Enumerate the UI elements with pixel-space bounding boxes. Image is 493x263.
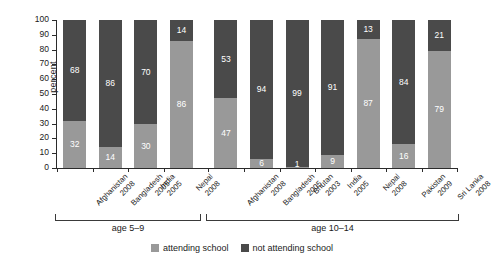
stacked-bar[interactable]: 8416 bbox=[392, 20, 415, 168]
y-axis-tick-label: 70 bbox=[21, 58, 49, 68]
x-axis-tick bbox=[315, 168, 316, 172]
bar-segment-attending[interactable]: 14 bbox=[99, 147, 122, 168]
y-axis-tick-label: 100 bbox=[21, 14, 49, 24]
bar-value-label: 84 bbox=[399, 78, 408, 87]
stacked-bar[interactable]: 919 bbox=[321, 20, 344, 168]
bar-segment-not-attending[interactable]: 68 bbox=[63, 20, 86, 121]
x-axis-tick bbox=[128, 168, 129, 172]
bar-value-label: 68 bbox=[70, 66, 79, 75]
stacked-bar[interactable]: 8614 bbox=[99, 20, 122, 168]
y-axis-tick-label: 60 bbox=[21, 73, 49, 83]
y-axis-tick-label: 10 bbox=[21, 147, 49, 157]
age-group-label: age 5–9 bbox=[55, 223, 201, 233]
bar-value-label: 13 bbox=[363, 25, 372, 34]
y-axis-tick-label: 0 bbox=[21, 162, 49, 172]
x-axis-tick bbox=[280, 168, 281, 172]
x-axis-tick bbox=[386, 168, 387, 172]
bar-segment-attending[interactable]: 6 bbox=[250, 159, 273, 168]
x-axis-category-label: Sri Lanka2008 bbox=[456, 172, 493, 209]
stacked-bar[interactable]: 5347 bbox=[214, 20, 237, 168]
bar-segment-not-attending[interactable]: 13 bbox=[357, 20, 380, 39]
x-axis-line bbox=[56, 168, 458, 169]
legend-swatch-attending-icon bbox=[151, 244, 159, 252]
stacked-bar[interactable]: 1486 bbox=[170, 20, 193, 168]
y-axis-tick: 80 bbox=[52, 50, 57, 51]
bar-segment-not-attending[interactable]: 21 bbox=[428, 20, 451, 51]
bar-value-label: 14 bbox=[177, 26, 186, 35]
x-axis-category-label: Bhutan2003 bbox=[311, 172, 342, 203]
bar-value-label: 32 bbox=[70, 140, 79, 149]
bar-segment-attending[interactable]: 30 bbox=[134, 124, 157, 168]
stacked-bar[interactable]: 7030 bbox=[134, 20, 157, 168]
bar-value-label: 70 bbox=[141, 68, 150, 77]
bar-value-label: 53 bbox=[221, 55, 230, 64]
bar-segment-attending[interactable]: 32 bbox=[63, 121, 86, 168]
legend-item-attending[interactable]: attending school bbox=[151, 243, 229, 253]
y-axis-tick: 100 bbox=[52, 20, 57, 21]
bar-segment-attending[interactable]: 47 bbox=[214, 98, 237, 168]
bar-segment-attending[interactable]: 87 bbox=[357, 39, 380, 168]
y-axis-tick: 50 bbox=[52, 94, 57, 95]
y-axis-tick: 60 bbox=[52, 79, 57, 80]
bar-segment-not-attending[interactable]: 14 bbox=[170, 20, 193, 41]
x-axis-tick bbox=[351, 168, 352, 172]
y-axis-tick-label: 50 bbox=[21, 88, 49, 98]
bar-segment-attending[interactable]: 1 bbox=[286, 167, 309, 168]
y-axis-tick-label: 30 bbox=[21, 118, 49, 128]
y-axis-tick-label: 80 bbox=[21, 44, 49, 54]
y-axis-tick: 30 bbox=[52, 124, 57, 125]
bar-value-label: 30 bbox=[141, 142, 150, 151]
x-axis-category-label: Nepal2008 bbox=[194, 172, 222, 200]
bar-segment-attending[interactable]: 16 bbox=[392, 144, 415, 168]
x-axis-category-label: Pakistan2009 bbox=[419, 172, 454, 207]
stacked-bar[interactable]: 1387 bbox=[357, 20, 380, 168]
legend-swatch-not-attending-icon bbox=[241, 244, 249, 252]
x-axis-tick bbox=[57, 168, 58, 172]
bar-segment-not-attending[interactable]: 70 bbox=[134, 20, 157, 124]
x-axis-category-label: Nepal2008 bbox=[381, 172, 409, 200]
x-axis-tick bbox=[93, 168, 94, 172]
y-axis-tick: 20 bbox=[52, 138, 57, 139]
bar-value-label: 14 bbox=[106, 153, 115, 162]
bar-segment-not-attending[interactable]: 99 bbox=[286, 20, 309, 167]
age-group-label: age 10–14 bbox=[206, 223, 458, 233]
y-axis-tick-label: 20 bbox=[21, 132, 49, 142]
bar-segment-not-attending[interactable]: 91 bbox=[321, 20, 344, 155]
x-axis-tick bbox=[422, 168, 423, 172]
bar-segment-attending[interactable]: 86 bbox=[170, 41, 193, 168]
bar-value-label: 16 bbox=[399, 152, 408, 161]
stacked-bar[interactable]: 2179 bbox=[428, 20, 451, 168]
x-axis-category-label: Afghanistan2008 bbox=[245, 172, 288, 215]
chart-legend: attending school not attending school bbox=[0, 243, 484, 253]
stacked-bar[interactable]: 991 bbox=[286, 20, 309, 168]
legend-item-not-attending[interactable]: not attending school bbox=[241, 243, 334, 253]
legend-label-attending: attending school bbox=[163, 243, 229, 253]
bar-segment-not-attending[interactable]: 84 bbox=[392, 20, 415, 144]
y-axis-tick-label: 90 bbox=[21, 29, 49, 39]
y-axis-tick: 40 bbox=[52, 109, 57, 110]
bar-segment-not-attending[interactable]: 94 bbox=[250, 20, 273, 159]
x-axis-tick bbox=[244, 168, 245, 172]
bar-value-label: 86 bbox=[106, 79, 115, 88]
legend-label-not-attending: not attending school bbox=[253, 243, 334, 253]
bar-segment-not-attending[interactable]: 53 bbox=[214, 20, 237, 98]
bar-segment-attending[interactable]: 9 bbox=[321, 155, 344, 168]
stacked-bar[interactable]: 946 bbox=[250, 20, 273, 168]
bar-value-label: 9 bbox=[330, 157, 335, 166]
bar-value-label: 79 bbox=[434, 105, 443, 114]
y-axis-tick: 70 bbox=[52, 64, 57, 65]
bar-segment-not-attending[interactable]: 86 bbox=[99, 20, 122, 147]
x-axis-category-label: India2005 bbox=[345, 172, 371, 198]
y-axis-tick: 0 bbox=[52, 168, 57, 169]
bar-value-label: 86 bbox=[177, 100, 186, 109]
bar-value-label: 91 bbox=[328, 83, 337, 92]
bar-value-label: 6 bbox=[259, 159, 264, 168]
stacked-bar[interactable]: 6832 bbox=[63, 20, 86, 168]
bar-value-label: 87 bbox=[363, 99, 372, 108]
x-axis-category-label: Afghanistan2008 bbox=[94, 172, 137, 215]
y-axis-tick-label: 40 bbox=[21, 103, 49, 113]
age-group-bracket bbox=[206, 214, 458, 221]
bar-segment-attending[interactable]: 79 bbox=[428, 51, 451, 168]
bar-value-label: 1 bbox=[295, 160, 300, 169]
